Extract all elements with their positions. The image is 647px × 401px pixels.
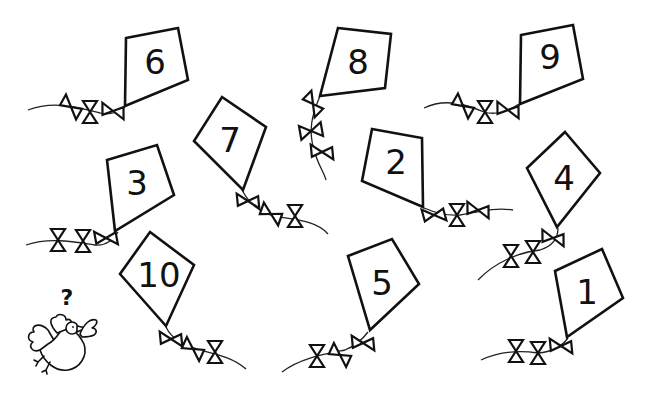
kite-10: 10 — [120, 232, 246, 369]
kite-6: 6 — [28, 28, 188, 123]
kite-number-1: 1 — [576, 272, 598, 312]
question-mark: ? — [61, 285, 74, 310]
kite-number-5: 5 — [371, 263, 393, 303]
kite-5: 5 — [282, 239, 419, 372]
kite-2: 2 — [362, 129, 513, 229]
kite-number-8: 8 — [347, 42, 369, 82]
kite-number-4: 4 — [553, 158, 575, 198]
kite-number-9: 9 — [539, 37, 561, 77]
kite-number-3: 3 — [126, 163, 148, 203]
kite-number-7: 7 — [219, 120, 241, 160]
confused-bird: ? — [29, 285, 97, 374]
kite-worksheet: 6 8 9 7 3 — [0, 0, 647, 401]
kite-9: 9 — [424, 25, 583, 123]
kite-number-10: 10 — [137, 255, 180, 295]
kite-7: 7 — [194, 97, 328, 234]
kite-number-6: 6 — [144, 42, 166, 82]
kite-number-2: 2 — [385, 142, 407, 182]
kite-1: 1 — [481, 249, 623, 364]
